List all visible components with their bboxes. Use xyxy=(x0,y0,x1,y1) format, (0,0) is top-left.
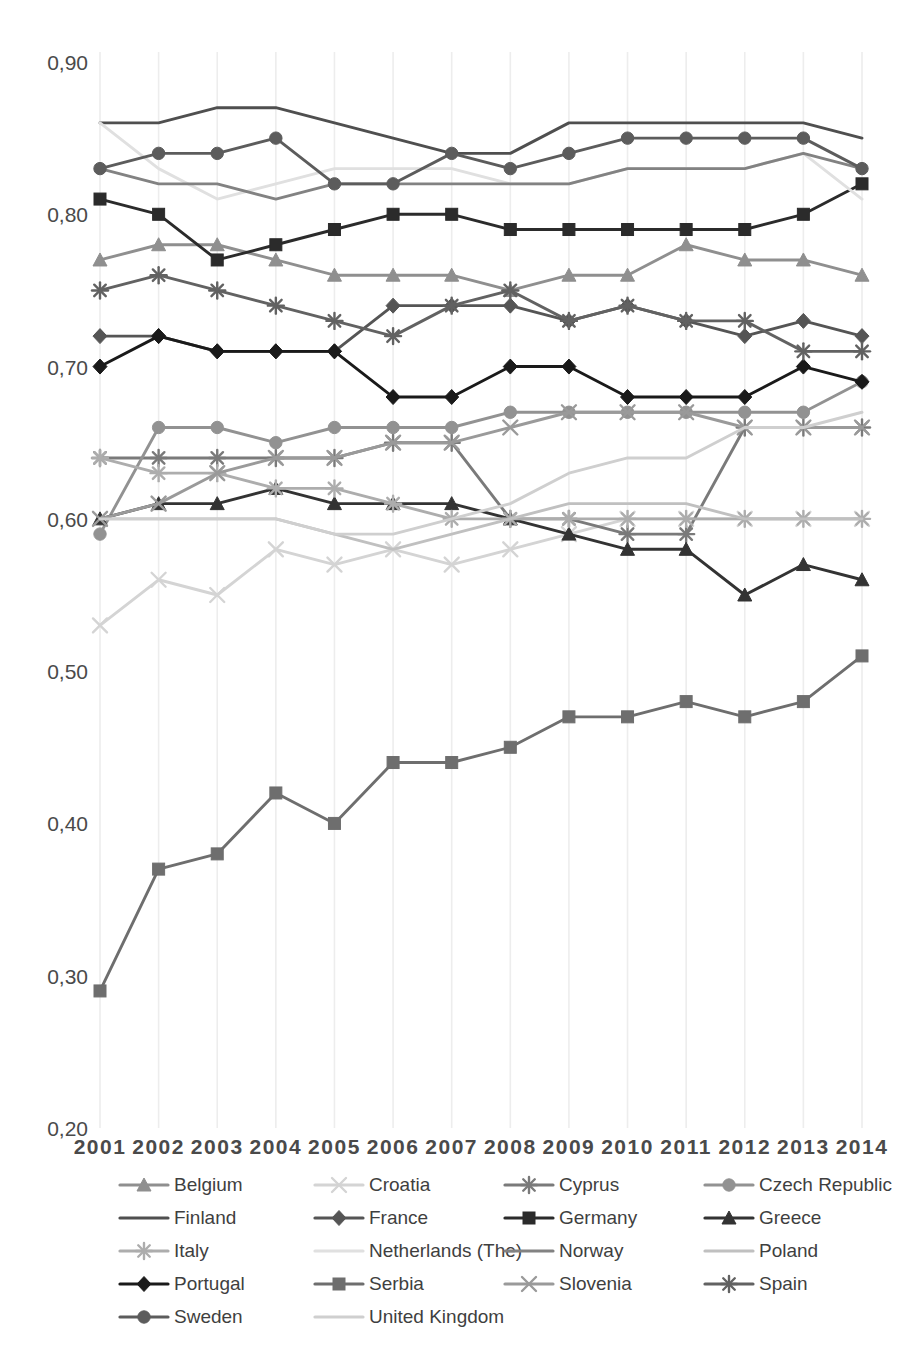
y-tick-label: 0,50 xyxy=(47,660,88,683)
legend-label: Greece xyxy=(759,1207,821,1229)
legend-marker-icon xyxy=(313,1307,365,1327)
x-tick-label: 2011 xyxy=(660,1135,712,1158)
legend-marker-icon xyxy=(118,1274,170,1294)
legend-marker-icon xyxy=(118,1208,170,1228)
legend-label: Spain xyxy=(759,1273,808,1295)
x-tick-label: 2009 xyxy=(543,1135,596,1158)
line-chart: 0,900,800,700,600,500,400,300,20 2001200… xyxy=(0,0,916,1160)
legend-marker-icon xyxy=(503,1175,555,1195)
x-tick-label: 2012 xyxy=(718,1135,771,1158)
x-tick-label: 2014 xyxy=(836,1135,889,1158)
x-tick-label: 2006 xyxy=(367,1135,420,1158)
legend-marker-icon xyxy=(503,1208,555,1228)
legend-marker-icon xyxy=(118,1175,170,1195)
legend-label: United Kingdom xyxy=(369,1306,504,1328)
series-cyprus xyxy=(92,419,870,542)
x-tick-label: 2002 xyxy=(132,1135,185,1158)
legend-row: FinlandFranceGermanyGreece xyxy=(118,1201,898,1234)
series-serbia xyxy=(94,650,868,997)
series-line xyxy=(100,108,862,154)
chart-legend: BelgiumCroatiaCyprusCzech RepublicFinlan… xyxy=(118,1168,898,1358)
legend-marker-icon xyxy=(503,1274,555,1294)
legend-label: Finland xyxy=(174,1207,236,1229)
legend-item-sweden[interactable]: Sweden xyxy=(118,1300,243,1333)
legend-marker-icon xyxy=(313,1241,365,1261)
legend-row: PortugalSerbiaSloveniaSpain xyxy=(118,1267,898,1300)
x-tick-label: 2004 xyxy=(249,1135,302,1158)
series-layer xyxy=(92,108,870,997)
legend-label: Italy xyxy=(174,1240,209,1262)
legend-label: Netherlands (The) xyxy=(369,1240,522,1262)
x-tick-label: 2003 xyxy=(191,1135,244,1158)
legend-marker-icon xyxy=(503,1241,555,1261)
x-axis-tick-labels: 2001200220032004200520062007200820092010… xyxy=(74,1135,889,1158)
series-greece xyxy=(93,481,869,601)
legend-row: BelgiumCroatiaCyprusCzech Republic xyxy=(118,1168,898,1201)
legend-item-belgium[interactable]: Belgium xyxy=(118,1168,243,1201)
y-tick-label: 0,30 xyxy=(47,965,88,988)
legend-label: Norway xyxy=(559,1240,623,1262)
legend-item-serbia[interactable]: Serbia xyxy=(313,1267,424,1300)
legend-row: SwedenUnited Kingdom xyxy=(118,1300,898,1333)
series-croatia xyxy=(93,512,869,633)
legend-label: France xyxy=(369,1207,428,1229)
legend-label: Czech Republic xyxy=(759,1174,892,1196)
legend-marker-icon xyxy=(118,1307,170,1327)
x-tick-label: 2007 xyxy=(425,1135,478,1158)
legend-label: Poland xyxy=(759,1240,818,1262)
series-line xyxy=(100,336,862,397)
y-tick-label: 0,90 xyxy=(47,51,88,74)
legend-marker-icon xyxy=(703,1274,755,1294)
legend-label: Cyprus xyxy=(559,1174,619,1196)
series-sweden xyxy=(94,132,868,190)
legend-label: Serbia xyxy=(369,1273,424,1295)
legend-item-greece[interactable]: Greece xyxy=(703,1201,821,1234)
legend-item-italy[interactable]: Italy xyxy=(118,1234,209,1267)
y-tick-label: 0,80 xyxy=(47,203,88,226)
chart-svg: 0,900,800,700,600,500,400,300,20 2001200… xyxy=(0,0,916,1160)
x-tick-label: 2005 xyxy=(308,1135,361,1158)
legend-item-cyprus[interactable]: Cyprus xyxy=(503,1168,619,1201)
legend-label: Portugal xyxy=(174,1273,245,1295)
legend-label: Sweden xyxy=(174,1306,243,1328)
legend-marker-icon xyxy=(313,1175,365,1195)
series-line xyxy=(100,656,862,991)
legend-item-portugal[interactable]: Portugal xyxy=(118,1267,245,1300)
legend-marker-icon xyxy=(703,1241,755,1261)
y-tick-label: 0,40 xyxy=(47,812,88,835)
legend-label: Croatia xyxy=(369,1174,430,1196)
x-tick-label: 2013 xyxy=(777,1135,830,1158)
series-finland xyxy=(100,108,862,154)
legend-row: ItalyNetherlands (The)NorwayPoland xyxy=(118,1234,898,1267)
legend-item-czech-republic[interactable]: Czech Republic xyxy=(703,1168,892,1201)
legend-item-united-kingdom[interactable]: United Kingdom xyxy=(313,1300,504,1333)
y-tick-label: 0,60 xyxy=(47,508,88,531)
legend-item-croatia[interactable]: Croatia xyxy=(313,1168,430,1201)
y-tick-label: 0,70 xyxy=(47,356,88,379)
legend-item-poland[interactable]: Poland xyxy=(703,1234,818,1267)
gridlines xyxy=(100,52,862,1128)
legend-marker-icon xyxy=(313,1274,365,1294)
y-axis-tick-labels: 0,900,800,700,600,500,400,300,20 xyxy=(47,51,88,1140)
legend-label: Belgium xyxy=(174,1174,243,1196)
legend-item-norway[interactable]: Norway xyxy=(503,1234,623,1267)
series-line xyxy=(100,306,862,352)
legend-item-spain[interactable]: Spain xyxy=(703,1267,808,1300)
legend-label: Slovenia xyxy=(559,1273,632,1295)
series-germany xyxy=(94,178,868,266)
legend-item-france[interactable]: France xyxy=(313,1201,428,1234)
series-line xyxy=(100,519,862,626)
series-portugal xyxy=(93,329,869,405)
legend-item-finland[interactable]: Finland xyxy=(118,1201,236,1234)
series-line xyxy=(100,245,862,291)
x-tick-label: 2001 xyxy=(74,1135,127,1158)
legend-item-slovenia[interactable]: Slovenia xyxy=(503,1267,632,1300)
series-italy xyxy=(92,450,870,527)
series-slovenia xyxy=(93,405,869,526)
legend-marker-icon xyxy=(703,1175,755,1195)
legend-item-netherlands-the[interactable]: Netherlands (The) xyxy=(313,1234,522,1267)
legend-marker-icon xyxy=(703,1208,755,1228)
legend-item-germany[interactable]: Germany xyxy=(503,1201,637,1234)
legend-label: Germany xyxy=(559,1207,637,1229)
legend-marker-icon xyxy=(118,1241,170,1261)
